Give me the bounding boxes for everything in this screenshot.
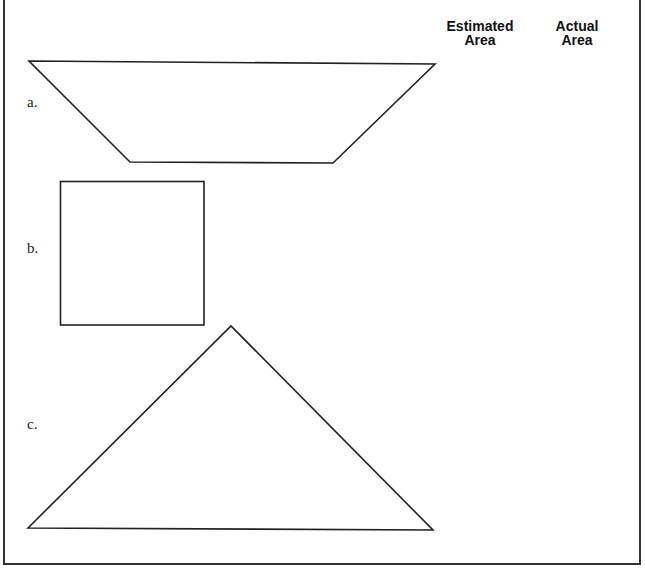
triangle-shape bbox=[28, 326, 433, 530]
shapes-canvas bbox=[0, 0, 645, 575]
trapezoid-shape bbox=[29, 61, 435, 163]
square-shape bbox=[61, 182, 205, 326]
